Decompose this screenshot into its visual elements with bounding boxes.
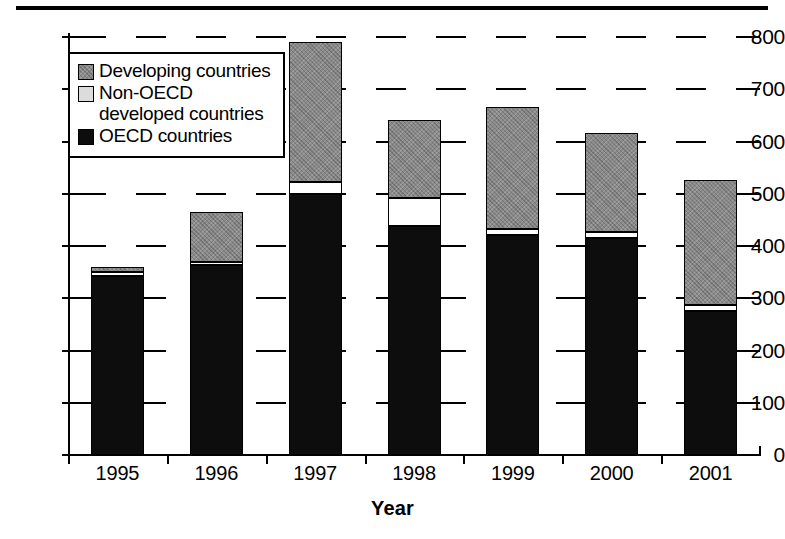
bar-segment-dev-1999 xyxy=(486,107,539,229)
y-tick-label: 200 xyxy=(733,340,785,361)
bar-segment-dev-2001 xyxy=(684,180,737,305)
bar-segment-oecd-2001 xyxy=(684,311,737,455)
x-tick-mark xyxy=(365,455,367,464)
bar-segment-nonoecd-2000 xyxy=(585,232,638,238)
y-tick-label: 300 xyxy=(733,287,785,308)
y-tick-label: 500 xyxy=(733,183,785,204)
y-tick-label: 600 xyxy=(733,131,785,152)
x-tick-mark xyxy=(661,455,663,464)
bar-segment-nonoecd-1996 xyxy=(190,262,243,266)
bar-segment-oecd-1999 xyxy=(486,235,539,455)
y-tick-mark xyxy=(62,193,76,195)
bar-1998 xyxy=(388,0,441,539)
x-axis-title: Year xyxy=(0,497,785,520)
y-tick-mark xyxy=(62,245,76,247)
bar-1999 xyxy=(486,0,539,539)
bar-segment-oecd-2000 xyxy=(585,238,638,455)
x-tick-mark xyxy=(463,455,465,464)
bar-segment-nonoecd-1995 xyxy=(91,272,144,276)
stacked-bar-chart: 0100200300400500600700800 19951996199719… xyxy=(0,0,785,539)
bar-segment-dev-2000 xyxy=(585,133,638,232)
legend-item-developing: Developing countries xyxy=(78,60,277,81)
bar-segment-dev-1996 xyxy=(190,212,243,262)
y-tick-mark xyxy=(62,297,76,299)
legend-label-developing: Developing countries xyxy=(99,60,270,81)
legend-label-oecd: OECD countries xyxy=(99,125,232,146)
legend-item-non-oecd: Non-OECD developed countries xyxy=(78,82,277,124)
bar-segment-nonoecd-1998 xyxy=(388,198,441,226)
y-tick-mark xyxy=(62,350,76,352)
x-tick-mark xyxy=(68,455,70,464)
legend-item-oecd: OECD countries xyxy=(78,125,277,146)
oecd-swatch-icon xyxy=(78,129,94,145)
y-tick-label: 700 xyxy=(733,78,785,99)
legend-label-non-oecd: Non-OECD developed countries xyxy=(99,82,263,124)
bar-segment-dev-1997 xyxy=(289,42,342,182)
bar-segment-nonoecd-1997 xyxy=(289,182,342,193)
x-tick-mark xyxy=(167,455,169,464)
bar-segment-oecd-1997 xyxy=(289,194,342,455)
y-tick-mark xyxy=(62,402,76,404)
y-tick-label: 800 xyxy=(733,26,785,47)
bar-2001 xyxy=(684,0,737,539)
bar-segment-dev-1998 xyxy=(388,120,441,198)
x-tick-mark xyxy=(562,455,564,464)
chart-legend: Developing countries Non-OECD developed … xyxy=(68,52,285,158)
developing-swatch-icon xyxy=(78,64,94,80)
y-tick-label: 400 xyxy=(733,235,785,256)
bar-segment-nonoecd-2001 xyxy=(684,305,737,311)
bar-segment-oecd-1995 xyxy=(91,276,144,455)
bar-segment-dev-1995 xyxy=(91,267,144,272)
x-tick-mark xyxy=(266,455,268,464)
x-tick-label-2001: 2001 xyxy=(651,462,771,484)
y-tick-label: 100 xyxy=(733,392,785,413)
bar-1997 xyxy=(289,0,342,539)
bar-segment-oecd-1996 xyxy=(190,265,243,455)
bar-segment-nonoecd-1999 xyxy=(486,229,539,235)
bar-2000 xyxy=(585,0,638,539)
y-tick-mark xyxy=(62,36,76,38)
bar-segment-oecd-1998 xyxy=(388,226,441,455)
non-oecd-swatch-icon xyxy=(78,86,94,102)
